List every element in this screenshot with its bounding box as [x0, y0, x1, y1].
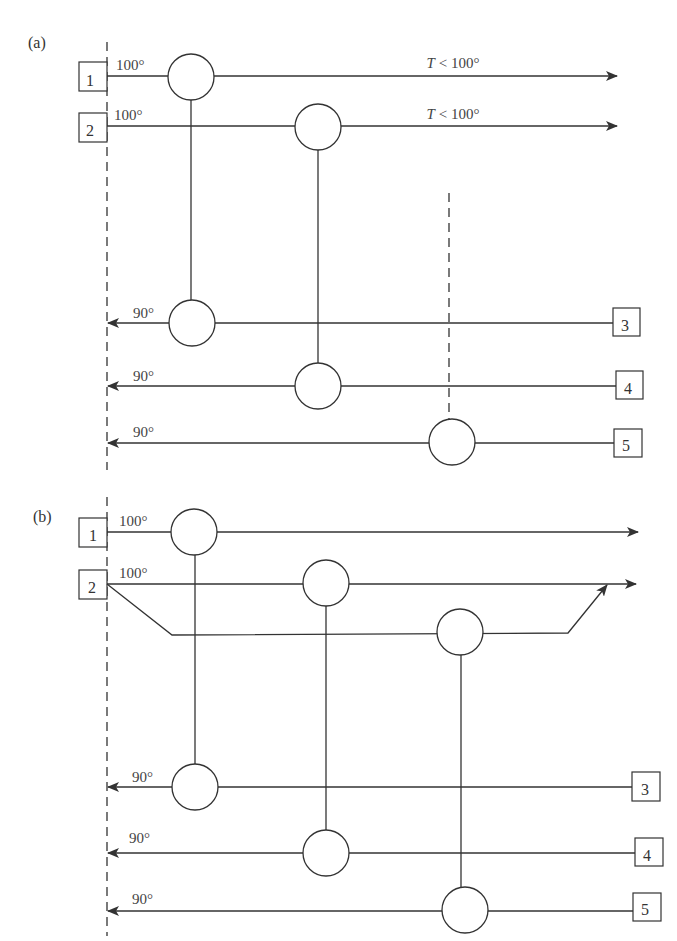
- stream-id-3: 3: [641, 781, 649, 798]
- exchanger-3-hot-branch: [437, 609, 483, 655]
- exchanger-3-cold: [429, 419, 475, 465]
- exchanger-1-hot: [168, 54, 214, 100]
- stream-id-1: 1: [89, 527, 97, 544]
- heat-exchanger-network-diagram: (a) 1 100° T < 100° 2 100° T < 100° 3 90…: [0, 0, 677, 941]
- inlet-temp-1: 100°: [116, 57, 145, 73]
- outlet-temp-4: 90°: [129, 830, 150, 846]
- inlet-temp-1: 100°: [119, 513, 148, 529]
- inlet-temp-2: 100°: [119, 565, 148, 581]
- panel-a: (a) 1 100° T < 100° 2 100° T < 100° 3 90…: [28, 34, 643, 470]
- panel-b: (b) 1 100° 2 100° 3 90° 4 90° 5 90°: [33, 497, 663, 936]
- stream-id-2: 2: [88, 579, 96, 596]
- outlet-temp-5: 90°: [132, 891, 153, 907]
- outlet-temp-3: 90°: [133, 305, 154, 321]
- stream-id-3: 3: [621, 317, 629, 334]
- inlet-temp-2: 100°: [114, 107, 143, 123]
- panel-b-label: (b): [33, 508, 52, 526]
- stream-id-2: 2: [86, 122, 94, 139]
- stream-id-4: 4: [624, 380, 632, 397]
- outlet-temp-4: 90°: [133, 368, 154, 384]
- outlet-temp-5: 90°: [133, 424, 154, 440]
- exchanger-3-cold: [442, 887, 488, 933]
- exchanger-1-cold: [169, 300, 215, 346]
- stream-id-5: 5: [622, 437, 630, 454]
- exchanger-1-cold: [172, 764, 218, 810]
- panel-a-label: (a): [28, 34, 46, 52]
- stream-id-5: 5: [641, 901, 649, 918]
- exchanger-2-hot: [303, 560, 349, 606]
- exchanger-1-hot: [171, 509, 217, 555]
- outlet-temp-3: 90°: [132, 769, 153, 785]
- hot-stream-2-branch: [107, 584, 607, 635]
- stream-id-1: 1: [86, 72, 94, 89]
- outlet-temp-1: T < 100°: [427, 55, 480, 71]
- exchanger-2-cold: [295, 363, 341, 409]
- outlet-temp-2: T < 100°: [427, 106, 480, 122]
- exchanger-2-hot: [295, 104, 341, 150]
- exchanger-2-cold: [303, 830, 349, 876]
- stream-id-4: 4: [643, 847, 651, 864]
